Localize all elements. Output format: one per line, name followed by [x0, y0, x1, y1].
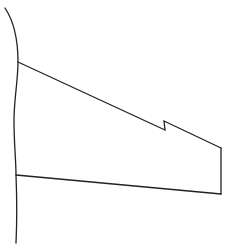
diagram-svg [0, 0, 234, 249]
panel-bottom-edge [16, 175, 221, 194]
left-curved-edge [5, 8, 18, 243]
diagram-canvas [0, 0, 234, 249]
panel-top-edge [18, 62, 221, 148]
